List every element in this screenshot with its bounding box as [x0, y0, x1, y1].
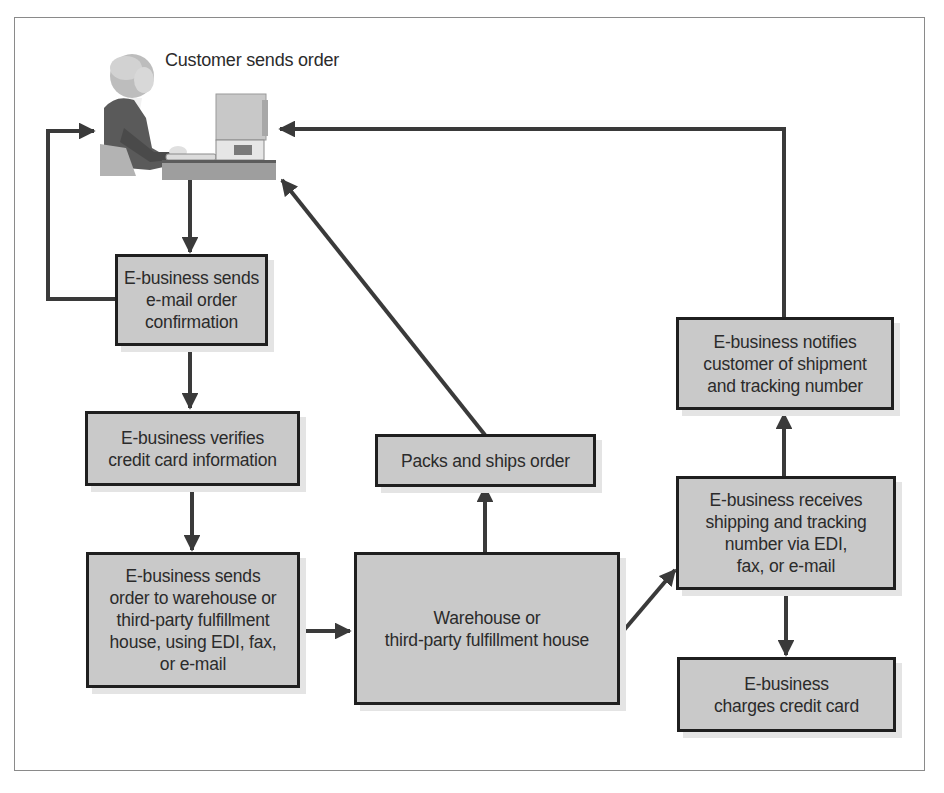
node-warehouse: Warehouse or third-party fulfillment hou…	[354, 552, 620, 705]
customer-sends-order-label: Customer sends order	[165, 50, 339, 71]
node-email-confirmation: E-business sends e-mail order confirmati…	[115, 254, 268, 346]
node-packs-and-ships: Packs and ships order	[375, 434, 596, 487]
node-notifies-customer: E-business notifies customer of shipment…	[676, 317, 894, 410]
node-receives-tracking: E-business receives shipping and trackin…	[676, 476, 896, 590]
node-charges-credit-card: E-business charges credit card	[677, 657, 896, 732]
node-verify-credit-card: E-business verifies credit card informat…	[85, 411, 300, 486]
node-send-order-to-warehouse: E-business sends order to warehouse or t…	[86, 552, 300, 688]
